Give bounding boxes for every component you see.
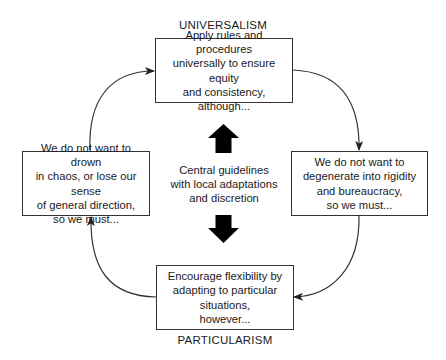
box-avoid-chaos: We do not want to drown in chaos, or los…	[22, 151, 150, 216]
box-universal-rules: Apply rules and procedures universally t…	[155, 38, 293, 103]
thick-up-arrow-icon	[208, 124, 239, 153]
curved-arrow-icon	[90, 71, 154, 150]
curved-arrow-icon	[91, 217, 156, 297]
box-encourage-flexibility: Encourage flexibility by adapting to par…	[156, 265, 294, 330]
particularism-label: PARTICULARISM	[150, 334, 300, 346]
curved-arrow-icon	[294, 216, 359, 297]
box-avoid-rigidity: We do not want to degenerate into rigidi…	[291, 151, 428, 216]
box-avoid-rigidity-text: We do not want to degenerate into rigidi…	[303, 155, 416, 212]
box-universal-rules-text: Apply rules and procedures universally t…	[160, 28, 288, 113]
thick-down-arrow-icon	[208, 215, 239, 243]
box-encourage-flexibility-text: Encourage flexibility by adapting to par…	[168, 269, 282, 326]
curved-arrow-icon	[293, 70, 359, 150]
box-avoid-chaos-text: We do not want to drown in chaos, or los…	[27, 141, 145, 226]
center-guidelines-text: Central guidelines with local adaptation…	[163, 163, 285, 206]
